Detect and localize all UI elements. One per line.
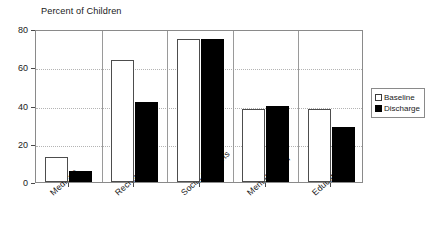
category-separator <box>233 31 234 182</box>
bar-discharge-mentalhealth <box>266 106 289 183</box>
plot-area <box>35 30 363 183</box>
bar-baseline-recreation <box>111 60 134 182</box>
y-axis-tick-label: 0 <box>0 178 28 188</box>
legend-label-discharge: Discharge <box>384 104 420 114</box>
legend-label-baseline: Baseline <box>384 93 415 103</box>
chart-legend: Baseline Discharge <box>371 88 425 118</box>
category-separator <box>102 31 103 182</box>
legend-item-discharge: Discharge <box>375 103 420 114</box>
chart-axis-caption: Percent of Children <box>41 6 122 16</box>
bar-baseline-mentalhealth <box>242 109 265 182</box>
bar-baseline-medical <box>45 157 68 182</box>
y-axis-tick-mark <box>31 183 35 184</box>
bar-baseline-education <box>308 109 331 182</box>
bar-discharge-medical <box>69 171 92 182</box>
legend-item-baseline: Baseline <box>375 92 420 103</box>
bar-discharge-education <box>332 127 355 182</box>
bar-discharge-recreation <box>135 102 158 182</box>
bar-discharge-socialsupports <box>201 39 224 182</box>
bar-chart: Percent of Children 020406080 Medical*Re… <box>0 0 432 248</box>
black-square-swatch-icon <box>375 105 382 112</box>
y-axis-tick-label: 40 <box>0 102 28 112</box>
bar-baseline-socialsupports <box>177 39 200 182</box>
y-axis-tick-label: 20 <box>0 140 28 150</box>
category-separator <box>167 31 168 182</box>
white-square-swatch-icon <box>375 94 382 101</box>
y-axis-tick-label: 80 <box>0 25 28 35</box>
y-axis-tick-label: 60 <box>0 63 28 73</box>
category-separator <box>298 31 299 182</box>
